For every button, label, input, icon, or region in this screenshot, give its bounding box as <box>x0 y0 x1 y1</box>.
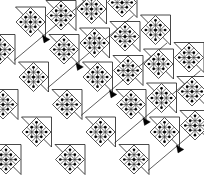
tessellation-canvas <box>0 0 204 183</box>
tessellation-figure <box>0 0 204 183</box>
